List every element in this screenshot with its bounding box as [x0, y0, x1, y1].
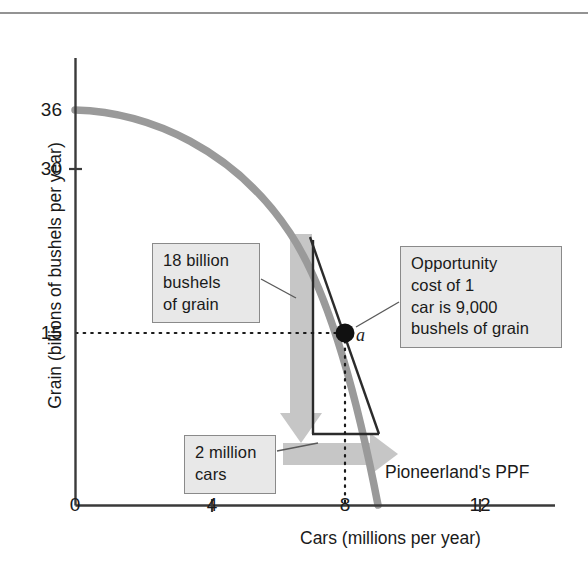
bushels-callout-line-2: bushels [163, 272, 250, 294]
ppf-curve-label: Pioneerland's PPF [385, 462, 529, 483]
bushels-callout: 18 billion bushels of grain [152, 243, 260, 323]
opportunity-callout-line-2: cost of 1 [411, 275, 552, 297]
opportunity-callout-line-3: car is 9,000 [411, 297, 552, 319]
x-tick-label-0: 0 [58, 494, 92, 516]
opportunity-callout: Opportunity cost of 1 car is 9,000 bushe… [400, 246, 562, 348]
cars-callout-line-2: cars [195, 464, 266, 486]
ppf-figure: 36 30 15 0 4 8 12 Cars (millions per yea… [0, 0, 588, 561]
grain-decrease-arrow [280, 234, 322, 443]
opportunity-callout-line-1: Opportunity [411, 253, 552, 275]
x-axis-title: Cars (millions per year) [300, 528, 481, 549]
bushels-callout-line-1: 18 billion [163, 250, 250, 272]
cars-callout: 2 million cars [184, 435, 276, 494]
x-tick-label-8: 8 [328, 494, 362, 516]
x-tick-label-12: 12 [458, 494, 502, 516]
leader-line-opportunity [356, 302, 399, 327]
point-a-label: a [356, 325, 365, 346]
point-a-marker [336, 324, 355, 343]
opportunity-callout-line-4: bushels of grain [411, 318, 552, 340]
cars-callout-line-1: 2 million [195, 442, 266, 464]
bushels-callout-line-3: of grain [163, 294, 250, 316]
y-axis-title: Grain (billions of bushels per year) [45, 126, 66, 426]
x-tick-label-4: 4 [195, 494, 229, 516]
y-tick-label-36: 36 [8, 99, 62, 121]
